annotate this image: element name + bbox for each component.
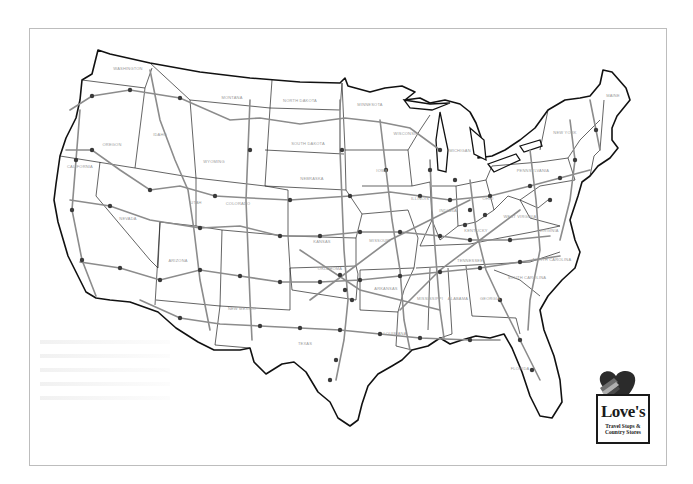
state-label: IDAHO (153, 132, 167, 137)
state-label: FLORIDA (511, 366, 530, 371)
tagline-line-2: Country Stores (598, 429, 648, 435)
state-label: GEORGIA (480, 296, 500, 301)
faded-legend (40, 330, 170, 410)
state-label: SOUTH CAROLINA (508, 275, 546, 280)
loves-logo: Love's Travel Stops & Country Stores (592, 368, 652, 446)
state-label: NEBRASKA (300, 176, 324, 181)
state-label: PENNSYLVANIA (517, 168, 550, 173)
state-label: IOWA (376, 168, 387, 173)
state-label: NEW MEXICO (228, 306, 256, 311)
state-label: CALIFORNIA (67, 164, 93, 169)
state-label: UTAH (190, 200, 201, 205)
state-label: WYOMING (203, 159, 224, 164)
state-label: ILLINOIS (411, 196, 429, 201)
logo-box: Love's Travel Stops & Country Stores (596, 394, 650, 444)
state-label: ARIZONA (168, 258, 187, 263)
state-label: LOUISIANA (383, 331, 406, 336)
state-label: VIRGINIA (539, 228, 558, 233)
brand-tagline: Travel Stops & Country Stores (598, 423, 648, 435)
state-label: MISSISSIPPI (417, 296, 443, 301)
state-label: NORTH DAKOTA (283, 98, 317, 103)
state-label: OHIO (482, 196, 493, 201)
state-label: SOUTH DAKOTA (291, 141, 325, 146)
state-label: MAINE (606, 93, 620, 98)
brand-name: Love's (598, 402, 648, 422)
state-label: WISCONSIN (394, 131, 419, 136)
state-label: MINNESOTA (357, 102, 382, 107)
state-label: MICHIGAN (449, 148, 471, 153)
state-label: ALABAMA (448, 296, 468, 301)
state-label: OKLAHOMA (318, 266, 342, 271)
us-map: WASHINGTONOREGONCALIFORNIANEVADAIDAHOMON… (0, 0, 693, 484)
state-label: TEXAS (298, 341, 312, 346)
state-label: NORTH CAROLINA (533, 257, 572, 262)
state-label: COLORADO (226, 201, 251, 206)
state-label: TENNESSEE (457, 258, 483, 263)
state-label: OREGON (103, 142, 122, 147)
state-label: WEST VIRGINIA (504, 214, 537, 219)
state-label: NEVADA (119, 216, 136, 221)
state-label: WASHINGTON (113, 66, 142, 71)
state-label: MISSOURI (369, 238, 390, 243)
state-label: INDIANA (439, 208, 457, 213)
state-label: KANSAS (313, 239, 331, 244)
state-label: ARKANSAS (374, 286, 398, 291)
state-label: NEW YORK (553, 130, 576, 135)
state-label: KENTUCKY (464, 228, 488, 233)
state-label: MONTANA (221, 95, 242, 100)
